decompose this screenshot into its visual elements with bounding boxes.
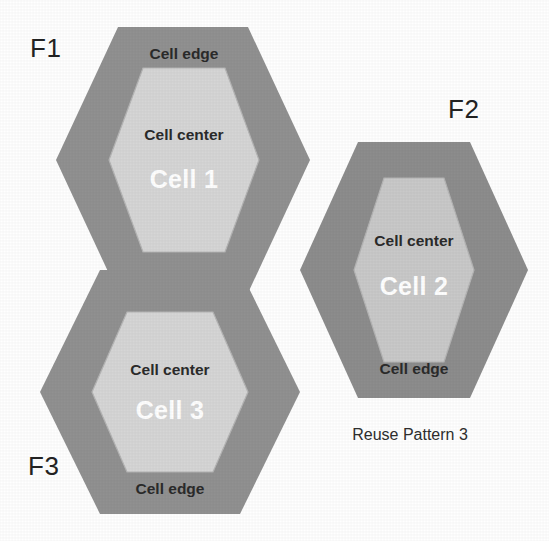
- frequency-label-f2: F2: [448, 94, 479, 124]
- cell-2-center-label: Cell center: [374, 232, 453, 249]
- frequency-label-f1: F1: [30, 33, 61, 63]
- cell-1-group: Cell edge Cell center Cell 1: [56, 27, 310, 293]
- cell-2-name-label: Cell 2: [380, 272, 449, 300]
- cell-3-edge-label: Cell edge: [136, 480, 205, 497]
- cell-1-edge-label: Cell edge: [150, 45, 219, 62]
- cell-1-center-label: Cell center: [144, 126, 223, 143]
- cell-3-center-label: Cell center: [130, 361, 209, 378]
- reuse-pattern-caption: Reuse Pattern 3: [352, 426, 468, 443]
- cell-1-name-label: Cell 1: [150, 165, 219, 193]
- cell-3-group: Cell center Cell 3 Cell edge: [40, 270, 300, 514]
- cell-2-group: Cell center Cell 2 Cell edge: [300, 142, 528, 398]
- cellular-reuse-diagram: Cell center Cell 2 Cell edge Cell center…: [0, 0, 549, 541]
- cell-3-name-label: Cell 3: [136, 396, 205, 424]
- cell-2-edge-label: Cell edge: [380, 360, 449, 377]
- diagram-canvas: Cell center Cell 2 Cell edge Cell center…: [0, 0, 549, 541]
- frequency-label-f3: F3: [28, 451, 59, 481]
